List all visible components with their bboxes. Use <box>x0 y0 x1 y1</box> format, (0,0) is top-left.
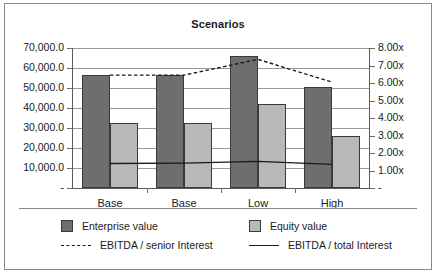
left-axis-tick-label: 30,000.0 <box>23 122 64 133</box>
legend-label-equity-value: Equity value <box>270 220 327 232</box>
bar-equity-value <box>184 123 212 188</box>
gridline <box>73 48 369 49</box>
plot-area: -10,000.020,000.030,000.040,000.050,000.… <box>73 48 369 188</box>
right-axis-tick <box>370 118 375 119</box>
legend-label-ebitda-senior-interest: EBITDA / senior Interest <box>100 239 213 251</box>
right-axis-tick <box>370 153 375 154</box>
bar-equity-value <box>258 104 286 188</box>
right-axis-tick-label: 3.00x <box>378 130 404 141</box>
left-axis-tick-label: 70,000.0 <box>23 42 64 53</box>
right-axis-tick-label: 4.00x <box>378 112 404 123</box>
right-axis-tick <box>370 48 375 49</box>
right-axis-tick-label: 1.00x <box>378 165 404 176</box>
legend-row-bars: Enterprise value Equity value <box>19 216 417 235</box>
right-axis-tick-label: 2.00x <box>378 147 404 158</box>
legend-swatch-icon-equity-value <box>249 220 261 232</box>
gridline <box>73 68 369 69</box>
bar-enterprise-value <box>82 75 110 188</box>
category-tick <box>147 188 148 193</box>
legend-solid-line-icon <box>249 240 279 250</box>
left-axis-tick-label: 20,000.0 <box>23 142 64 153</box>
left-axis-tick-label: 60,000.0 <box>23 62 64 73</box>
legend-item-ebitda-senior-interest[interactable]: EBITDA / senior Interest <box>19 239 231 251</box>
bar-equity-value <box>332 136 360 188</box>
left-axis-tick-label: - <box>61 182 65 193</box>
right-axis-tick <box>370 136 375 137</box>
bar-enterprise-value <box>230 56 258 188</box>
legend-row-lines: EBITDA / senior Interest EBITDA / total … <box>19 235 417 254</box>
bar-equity-value <box>110 123 138 188</box>
right-axis-tick <box>370 171 375 172</box>
right-axis-tick-label: 8.00x <box>378 42 404 53</box>
chart-frame: Scenarios -10,000.020,000.030,000.040,00… <box>4 3 432 270</box>
legend-item-ebitda-total-interest[interactable]: EBITDA / total Interest <box>231 239 392 251</box>
legend-item-enterprise-value[interactable]: Enterprise value <box>19 220 231 232</box>
right-axis-tick-label: 7.00x <box>378 60 404 71</box>
right-axis-tick <box>370 66 375 67</box>
right-axis-tick-label: 5.00x <box>378 95 404 106</box>
left-axis-tick-label: 40,000.0 <box>23 102 64 113</box>
legend-item-equity-value[interactable]: Equity value <box>231 220 327 232</box>
legend-label-enterprise-value: Enterprise value <box>82 220 158 232</box>
legend-dotted-line-icon <box>61 240 91 250</box>
category-tick <box>295 188 296 193</box>
left-axis-tick-label: 10,000.0 <box>23 162 64 173</box>
bar-enterprise-value <box>156 75 184 188</box>
chart-title: Scenarios <box>5 18 431 30</box>
left-axis-tick-label: 50,000.0 <box>23 82 64 93</box>
legend-label-ebitda-total-interest: EBITDA / total Interest <box>288 239 392 251</box>
bar-enterprise-value <box>304 87 332 188</box>
right-axis-tick <box>370 83 375 84</box>
right-axis-tick-label: - <box>378 182 382 193</box>
chart-legend: Enterprise value Equity value EBITDA / s… <box>19 208 417 256</box>
right-axis-tick <box>370 188 375 189</box>
legend-swatch-icon-enterprise-value <box>61 220 73 232</box>
right-axis-tick-label: 6.00x <box>378 77 404 88</box>
left-axis-line <box>72 48 73 188</box>
right-axis-tick <box>370 101 375 102</box>
right-axis-line <box>369 48 370 188</box>
category-tick <box>221 188 222 193</box>
